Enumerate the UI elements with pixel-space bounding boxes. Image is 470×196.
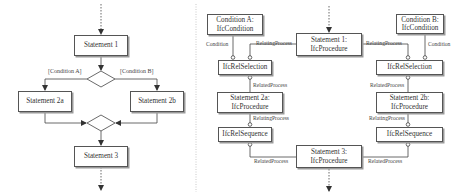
condition-b-label: [Condition B] [120, 68, 154, 74]
rel-selection-left-label: IfcRelSelection [223, 63, 268, 72]
statement-2a-label: Statement 2a [26, 97, 63, 106]
statement-2a-box: Statement 2a [18, 91, 72, 112]
rel-sequence-right-label: IfcRelSequence [387, 130, 433, 139]
rel-selection-right-box: IfcRelSelection [376, 60, 443, 75]
rel-selection-right-label: IfcRelSelection [387, 63, 432, 72]
related-process-s3-left-link [250, 146, 296, 157]
rel-sequence-left-box: IfcRelSequence [218, 127, 272, 142]
condition-role-right: Condition [428, 41, 450, 47]
related-process-role-bottom-right: RelatedProcess [368, 158, 402, 164]
statement-2b-label: Statement 2b [138, 97, 176, 106]
statement-2b-box: Statement 2b [130, 91, 184, 112]
aggregation-circle [248, 76, 252, 80]
aggregation-circle [406, 56, 410, 60]
statement-2a-entity-type: IfcProcedure [231, 103, 268, 112]
aggregation-circle [248, 56, 252, 60]
statement-2b-entity-box: Statement 2b: IfcProcedure [376, 92, 443, 113]
statement-1-box: Statement 1 [74, 35, 128, 56]
statement-1-entity-type: IfcProcedure [310, 45, 347, 54]
condition-a-name: Condition A: [216, 16, 253, 25]
rel-sequence-left-label: IfcRelSequence [222, 130, 268, 139]
condition-a-type: IfcCondition [217, 25, 254, 34]
related-process-role-right: RelatedProcess [370, 82, 404, 88]
condition-b-name: Condition B: [401, 16, 438, 25]
statement-3-box: Statement 3 [74, 146, 128, 167]
statement-3-label: Statement 3 [84, 152, 118, 161]
statement-2b-entity-type: IfcProcedure [391, 103, 428, 112]
related-process-role-bottom-left: RelatedProcess [254, 158, 288, 164]
branch-a-arrow [45, 79, 87, 90]
merge-a-arrow [45, 112, 86, 123]
condition-a-box: Condition A: IfcCondition [207, 14, 263, 35]
relating-process-role-mid-left: RelatingProcess [253, 115, 289, 121]
related-process-s3-right-link [362, 146, 408, 157]
statement-1-entity-name: Statement 1: [311, 36, 347, 45]
statement-3-entity-type: IfcProcedure [310, 157, 347, 166]
aggregation-circle [248, 143, 252, 147]
statement-1-label: Statement 1 [84, 41, 118, 50]
statement-2b-entity-name: Statement 2b: [390, 94, 430, 103]
relating-process-role-top-right: RelatingProcess [366, 40, 402, 46]
aggregation-circle [423, 56, 427, 60]
rel-selection-left-box: IfcRelSelection [218, 60, 272, 75]
condition-b-type: IfcCondition [402, 24, 439, 33]
rel-sequence-right-box: IfcRelSequence [376, 127, 443, 142]
statement-2a-entity-box: Statement 2a: IfcProcedure [217, 92, 283, 113]
relating-process-role-mid-right: RelatingProcess [369, 115, 405, 121]
aggregation-circle [248, 123, 252, 127]
aggregation-circle [406, 76, 410, 80]
statement-1-entity-box: Statement 1: IfcProcedure [296, 33, 362, 56]
statement-2a-entity-name: Statement 2a: [230, 94, 269, 103]
condition-a-label: [Condition A] [48, 68, 82, 74]
merge-b-arrow [116, 112, 157, 123]
aggregation-circle [406, 143, 410, 147]
condition-b-box: Condition B: IfcCondition [396, 14, 444, 34]
aggregation-circle [406, 123, 410, 127]
merge-diamond [87, 115, 115, 131]
condition-role-left: Condition [206, 41, 228, 47]
aggregation-circle [231, 56, 235, 60]
decision-diamond [87, 71, 115, 87]
branch-b-arrow [115, 79, 157, 90]
statement-3-entity-box: Statement 3: IfcProcedure [296, 145, 362, 168]
statement-3-entity-name: Statement 3: [311, 148, 347, 157]
relating-process-role-top-left: RelatingProcess [256, 40, 292, 46]
related-process-role-left: RelatedProcess [253, 82, 287, 88]
